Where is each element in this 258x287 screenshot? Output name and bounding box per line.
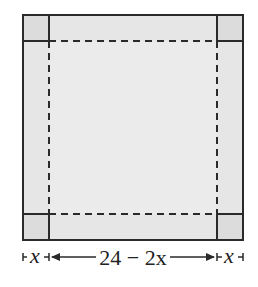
- corner-top-right: [217, 15, 243, 41]
- corner-top-left: [23, 15, 49, 41]
- box-net-diagram: x 24 − 2x x: [0, 0, 258, 287]
- label-right-x: x: [223, 243, 234, 268]
- corner-bottom-right: [217, 214, 243, 240]
- corner-bottom-left: [23, 214, 49, 240]
- label-left-x: x: [29, 243, 40, 268]
- arrow-left-icon: [51, 253, 60, 261]
- base-region: [49, 41, 217, 214]
- arrow-right-icon: [206, 253, 215, 261]
- label-middle: 24 − 2x: [99, 245, 166, 270]
